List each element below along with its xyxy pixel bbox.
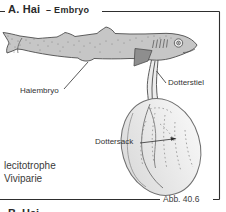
caption-line-1: lecitotrophe — [4, 159, 56, 172]
label-haiembryo: Haiembryo — [20, 86, 59, 95]
label-dotterstiel: Dotterstiel — [168, 78, 204, 87]
leader-haiembryo — [64, 62, 88, 89]
figure-panel-shark-embryo: A. Hai – Embryo Haiembryo Dotterstiel Do… — [0, 0, 226, 212]
next-panel-title-partial: B. Hai — [8, 207, 39, 212]
caption-line-2: Viviparie — [4, 172, 56, 185]
label-dottersack: Dottersack — [95, 137, 133, 146]
eye-pupil — [178, 42, 179, 43]
panel-title: A. Hai — [8, 3, 40, 15]
yolk-sac-shape — [110, 89, 212, 205]
pectoral-fin — [134, 49, 152, 67]
caption-viviparity: lecitotrophe Viviparie — [4, 159, 56, 185]
panel-subtitle: – Embryo — [46, 5, 89, 15]
leader-dotterstiel — [157, 71, 167, 83]
figure-reference: Abb. 40.6 — [163, 194, 199, 204]
